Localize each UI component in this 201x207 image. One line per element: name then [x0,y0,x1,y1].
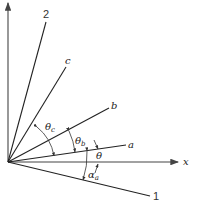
line-2-label: 2 [43,8,49,20]
theta-arrow-top [94,140,98,149]
theta-c-label: θc [45,121,55,134]
line-b-label: b [111,100,117,111]
line-b [8,108,109,162]
angle-diagram: x 2 c b a 1 θc θb θ αa [0,0,201,207]
x-axis-label: x [183,156,189,167]
line-1-label: 1 [153,190,159,202]
alpha-a-arc [83,151,87,180]
theta-b-label: θb [75,135,86,148]
line-c [8,67,66,162]
line-c-label: c [65,55,71,66]
line-1 [8,162,150,196]
alpha-a-label: αa [88,169,99,182]
line-a-label: a [128,139,134,150]
theta-arrow-bottom [95,164,98,173]
line-a [8,145,126,162]
theta-label: θ [96,150,102,161]
line-2 [8,22,46,162]
